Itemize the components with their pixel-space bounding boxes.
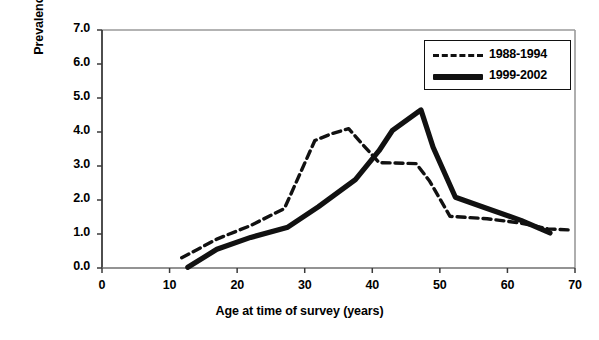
y-axis-label: Prevalence of anti-HCV (%)	[14, 0, 60, 92]
x-axis-tick-label: 70	[555, 278, 595, 292]
legend-label-1988-1994: 1988-1994	[489, 47, 547, 61]
y-axis-tick-label: 6.0	[44, 55, 90, 69]
y-axis-label-line1: Prevalence of anti-HCV	[31, 0, 48, 92]
x-axis-tick-label: 0	[82, 278, 122, 292]
y-axis-tick-label: 7.0	[44, 21, 90, 35]
series-line-1999-2002	[188, 110, 550, 267]
x-axis-tick-label: 10	[150, 278, 190, 292]
dashed-line-swatch-icon	[433, 54, 483, 57]
x-axis-label: Age at time of survey (years)	[0, 304, 599, 318]
x-axis-tick-label: 50	[420, 278, 460, 292]
x-axis-tick-label: 60	[487, 278, 527, 292]
x-axis-tick-label: 20	[217, 278, 257, 292]
series-line-1988-1994	[182, 129, 569, 258]
y-axis-tick-label: 0.0	[44, 259, 90, 273]
legend-entry-1999-2002: 1999-2002	[433, 66, 565, 86]
y-axis-tick-label: 5.0	[44, 89, 90, 103]
legend-entry-1988-1994: 1988-1994	[433, 45, 565, 65]
x-axis-tick-label: 40	[352, 278, 392, 292]
y-axis-tick-label: 3.0	[44, 157, 90, 171]
chart-figure: Prevalence of anti-HCV (%) Age at time o…	[0, 0, 599, 340]
y-axis-label-line2: (%)	[65, 0, 82, 92]
y-axis-tick-label: 4.0	[44, 123, 90, 137]
y-axis-tick-label: 1.0	[44, 225, 90, 239]
y-axis-tick-label: 2.0	[44, 191, 90, 205]
x-axis-tick-label: 30	[285, 278, 325, 292]
chart-legend: 1988-1994 1999-2002	[424, 40, 571, 90]
legend-label-1999-2002: 1999-2002	[489, 68, 547, 82]
solid-line-swatch-icon	[433, 74, 483, 80]
